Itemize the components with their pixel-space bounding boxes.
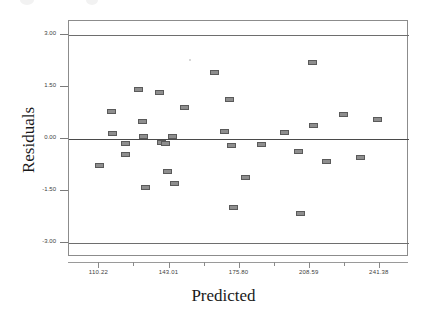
data-point — [322, 159, 331, 164]
data-point — [309, 123, 318, 128]
data-point — [170, 181, 179, 186]
data-point — [121, 141, 130, 146]
data-point — [339, 112, 348, 117]
data-point — [280, 130, 289, 135]
residual-plot: 3.001.500.00-1.50-3.00 110.22143.01175.8… — [0, 0, 447, 316]
data-point — [210, 70, 219, 75]
data-point — [141, 185, 150, 190]
data-point — [108, 131, 117, 136]
y-tick-label: -3.00 — [22, 238, 56, 244]
data-point — [180, 105, 189, 110]
data-point — [155, 90, 164, 95]
data-point — [138, 119, 147, 124]
y-tick — [60, 34, 68, 35]
x-minor-tick — [344, 262, 345, 266]
x-minor-tick — [274, 262, 275, 266]
data-point — [139, 134, 148, 139]
reference-line-3 — [69, 35, 409, 36]
reference-line--3 — [69, 243, 409, 244]
data-point — [220, 129, 229, 134]
data-point — [107, 109, 116, 114]
y-tick — [60, 138, 68, 139]
data-point — [294, 149, 303, 154]
x-tick — [98, 262, 99, 268]
data-point — [373, 117, 382, 122]
data-point — [229, 205, 238, 210]
reference-line-0 — [69, 139, 409, 140]
data-point — [356, 155, 365, 160]
data-point — [161, 141, 170, 146]
scan-artifact-right — [86, 0, 98, 5]
scan-artifact-left — [20, 0, 34, 5]
data-point — [241, 175, 250, 180]
y-tick — [60, 242, 68, 243]
data-point — [163, 169, 172, 174]
x-axis-title: Predicted — [0, 286, 447, 306]
data-point — [121, 152, 130, 157]
x-tick-label: 110.22 — [75, 269, 121, 275]
data-point — [296, 211, 305, 216]
data-point — [95, 163, 104, 168]
y-tick-label: 3.00 — [22, 30, 56, 36]
x-tick-label: 241.38 — [356, 269, 402, 275]
y-axis-title: Residuals — [19, 85, 39, 195]
x-tick-label: 175.80 — [216, 269, 262, 275]
x-tick-label: 143.01 — [146, 269, 192, 275]
x-tick-label: 208.59 — [286, 269, 332, 275]
y-tick — [60, 86, 68, 87]
data-point — [227, 143, 236, 148]
plot-area — [68, 20, 408, 256]
data-point — [308, 60, 317, 65]
x-tick — [309, 262, 310, 268]
stray-speck — [189, 59, 191, 61]
data-point — [225, 97, 234, 102]
x-tick — [239, 262, 240, 268]
x-minor-tick — [133, 262, 134, 266]
x-minor-tick — [204, 262, 205, 266]
x-tick — [169, 262, 170, 268]
data-point — [257, 142, 266, 147]
data-point — [134, 87, 143, 92]
x-tick — [379, 262, 380, 268]
y-tick — [60, 190, 68, 191]
data-point — [168, 134, 177, 139]
